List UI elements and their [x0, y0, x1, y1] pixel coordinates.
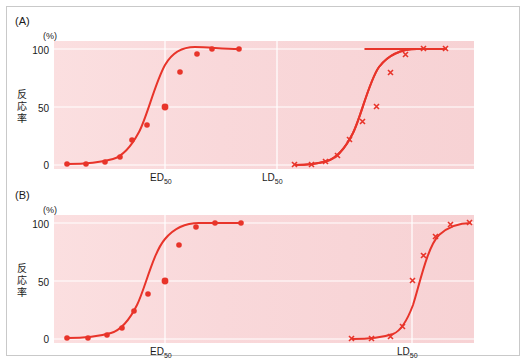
panel-b-ld50-label: LD50: [397, 346, 418, 359]
panel-a-curves: [7, 7, 521, 182]
panel-b-curves: [7, 181, 521, 356]
figure-frame: (A) (%) 100 50 0 反応率: [6, 6, 520, 356]
panel-a: (A) (%) 100 50 0 反応率: [7, 7, 521, 182]
panel-b-ed50-label: ED50: [150, 346, 172, 359]
panel-b: (B) (%) 100 50 0 反応率: [7, 181, 521, 356]
